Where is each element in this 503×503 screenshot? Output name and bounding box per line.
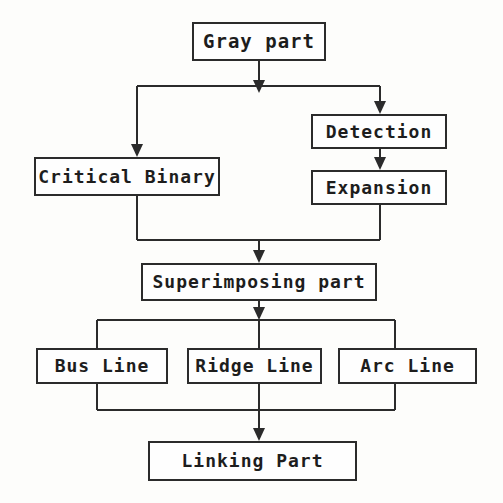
arrowhead-detection-down bbox=[374, 101, 386, 114]
node-ridge-line-label: Ridge Line bbox=[195, 357, 313, 375]
node-critical-binary[interactable]: Critical Binary bbox=[34, 157, 220, 196]
node-critical-binary-label: Critical Binary bbox=[38, 168, 216, 186]
node-bus-line[interactable]: Bus Line bbox=[36, 348, 168, 384]
node-linking-part[interactable]: Linking Part bbox=[148, 441, 357, 481]
node-superimposing-part-label: Superimposing part bbox=[152, 273, 365, 291]
flowchart-connectors bbox=[0, 0, 503, 503]
arrowhead-lower-split-down bbox=[253, 307, 265, 320]
arrowhead-gray-part-down bbox=[253, 80, 265, 93]
node-expansion-label: Expansion bbox=[326, 179, 433, 197]
node-expansion[interactable]: Expansion bbox=[311, 170, 447, 205]
node-ridge-line[interactable]: Ridge Line bbox=[187, 348, 322, 384]
arrowhead-superimposing-down bbox=[253, 250, 265, 263]
arrowhead-expansion-down bbox=[374, 157, 386, 170]
flowchart-canvas: Gray part Detection Critical Binary Expa… bbox=[0, 0, 503, 503]
node-gray-part[interactable]: Gray part bbox=[192, 22, 326, 61]
node-arc-line[interactable]: Arc Line bbox=[338, 348, 477, 384]
node-detection[interactable]: Detection bbox=[311, 114, 447, 149]
node-arc-line-label: Arc Line bbox=[360, 357, 455, 375]
node-detection-label: Detection bbox=[326, 123, 433, 141]
arrowhead-critical-binary-down bbox=[131, 144, 143, 157]
node-gray-part-label: Gray part bbox=[203, 32, 315, 51]
node-linking-part-label: Linking Part bbox=[181, 452, 323, 470]
node-bus-line-label: Bus Line bbox=[55, 357, 150, 375]
node-superimposing-part[interactable]: Superimposing part bbox=[141, 263, 377, 301]
arrowhead-linking-part-down bbox=[253, 428, 265, 441]
